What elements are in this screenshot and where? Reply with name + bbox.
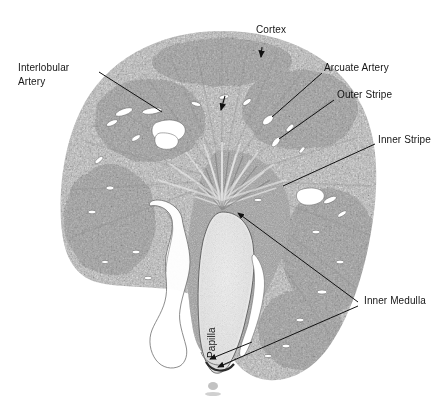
kidney-micrograph [0, 0, 444, 406]
label-inner-stripe: Inner Stripe [378, 134, 431, 146]
label-papilla: Papilla [206, 327, 218, 358]
figure-canvas: Cortex Interlobular Artery Arcuate Arter… [0, 0, 444, 406]
label-arcuate-artery: Arcuate Artery [324, 62, 389, 74]
label-outer-stripe: Outer Stripe [337, 89, 392, 101]
label-cortex: Cortex [256, 24, 286, 36]
label-interlobular-artery-line2: Artery [18, 76, 45, 88]
label-inner-medulla: Inner Medulla [364, 295, 426, 307]
label-interlobular-artery-line1: Interlobular [18, 62, 69, 74]
